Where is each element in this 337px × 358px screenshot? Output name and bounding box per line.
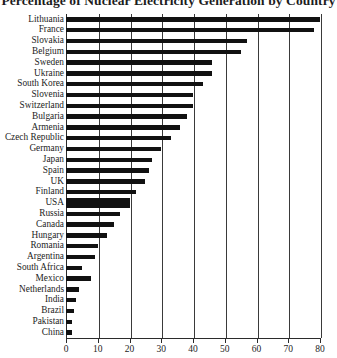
gridline-60 <box>258 14 259 338</box>
category-label-finland: Finland <box>36 187 64 196</box>
bar-mexico <box>66 276 91 281</box>
bar-russia <box>66 212 120 217</box>
bar-netherlands <box>66 287 79 292</box>
x-tick-label-30: 30 <box>157 344 167 354</box>
category-label-france: France <box>39 25 64 34</box>
bar-usa <box>66 198 130 208</box>
x-tick-label-50: 50 <box>220 344 230 354</box>
category-label-netherlands: Netherlands <box>19 285 64 294</box>
category-label-south-africa: South Africa <box>17 263 64 272</box>
x-tick-60 <box>257 338 258 343</box>
category-label-switzerland: Switzerland <box>20 101 64 110</box>
bar-argentina <box>66 255 95 260</box>
category-label-russia: Russia <box>39 209 64 218</box>
x-tick-label-20: 20 <box>125 344 135 354</box>
bar-slovenia <box>66 93 193 98</box>
bar-pakistan <box>66 320 72 325</box>
category-label-slovenia: Slovenia <box>31 90 64 99</box>
category-label-japan: Japan <box>43 155 64 164</box>
category-label-belgium: Belgium <box>32 47 64 56</box>
category-label-sweden: Sweden <box>35 58 64 67</box>
category-label-armenia: Armenia <box>31 123 64 132</box>
x-tick-20 <box>130 338 131 343</box>
x-tick-50 <box>225 338 226 343</box>
category-label-china: China <box>42 328 64 337</box>
category-label-canada: Canada <box>36 220 64 229</box>
bar-switzerland <box>66 104 193 109</box>
category-label-hungary: Hungary <box>31 231 64 240</box>
bar-hungary <box>66 233 107 238</box>
category-label-uk: UK <box>51 177 64 186</box>
bar-south-korea <box>66 82 203 87</box>
category-label-brazil: Brazil <box>41 306 64 315</box>
category-label-india: India <box>45 295 64 304</box>
category-label-bulgaria: Bulgaria <box>32 112 64 121</box>
bar-south-africa <box>66 266 82 271</box>
category-label-romania: Romania <box>30 241 64 250</box>
gridline-50 <box>226 14 227 338</box>
category-label-slovakia: Slovakia <box>31 36 64 45</box>
category-label-ukraine: Ukraine <box>34 69 64 78</box>
bar-finland <box>66 190 136 195</box>
bar-germany <box>66 147 161 152</box>
category-label-pakistan: Pakistan <box>32 317 64 326</box>
bar-canada <box>66 222 114 227</box>
x-tick-label-0: 0 <box>64 344 69 354</box>
category-label-mexico: Mexico <box>36 274 64 283</box>
category-label-czech-republic: Czech Republic <box>5 133 64 142</box>
x-tick-label-80: 80 <box>315 344 325 354</box>
chart-title: Percentage of Nuclear Electricity Genera… <box>0 0 337 9</box>
category-label-germany: Germany <box>29 144 64 153</box>
x-tick-30 <box>161 338 162 343</box>
bar-czech-republic <box>66 136 171 141</box>
bar-sweden <box>66 60 212 65</box>
bar-india <box>66 298 76 303</box>
category-label-argentina: Argentina <box>27 252 64 261</box>
bar-armenia <box>66 125 180 130</box>
bar-lithuania <box>66 17 320 22</box>
x-tick-70 <box>288 338 289 343</box>
x-tick-label-60: 60 <box>252 344 262 354</box>
bar-france <box>66 28 314 33</box>
bar-ukraine <box>66 71 212 76</box>
gridline-70 <box>289 14 290 338</box>
bar-bulgaria <box>66 114 187 119</box>
x-tick-label-70: 70 <box>284 344 294 354</box>
x-tick-0 <box>66 338 67 343</box>
x-tick-80 <box>320 338 321 343</box>
bar-slovakia <box>66 39 247 44</box>
x-tick-10 <box>98 338 99 343</box>
category-label-south-korea: South Korea <box>17 79 64 88</box>
bar-belgium <box>66 50 241 55</box>
bar-spain <box>66 168 149 173</box>
x-tick-label-40: 40 <box>188 344 198 354</box>
bar-china <box>66 330 72 335</box>
bar-uk <box>66 179 145 184</box>
bar-japan <box>66 158 152 163</box>
x-tick-label-10: 10 <box>93 344 103 354</box>
bar-brazil <box>66 309 74 314</box>
category-label-usa: USA <box>45 198 64 207</box>
bar-romania <box>66 244 98 249</box>
gridline-80 <box>321 14 322 338</box>
category-label-lithuania: Lithuania <box>28 15 64 24</box>
category-label-spain: Spain <box>43 166 64 175</box>
bar-chart: Percentage of Nuclear Electricity Genera… <box>0 0 337 358</box>
x-tick-40 <box>193 338 194 343</box>
